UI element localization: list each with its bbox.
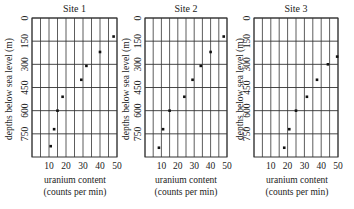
data-point [56, 109, 59, 112]
data-point [191, 78, 194, 81]
x-tick-label: 40 [206, 161, 216, 171]
x-axis-label: uranium content (counts per min) [247, 174, 347, 198]
data-point [85, 65, 88, 68]
data-point [199, 65, 202, 68]
data-point [295, 109, 298, 112]
data-point [283, 146, 286, 149]
y-tick-label: 300 [20, 57, 30, 72]
y-tick-label: 150 [242, 34, 252, 49]
x-tick-label: 20 [283, 161, 293, 171]
data-point [327, 63, 330, 66]
y-tick-label: 600 [20, 103, 30, 118]
x-tick-label: 10 [266, 161, 276, 171]
x-tick-label: 50 [333, 161, 343, 171]
data-point [80, 78, 83, 81]
data-point [53, 128, 56, 131]
y-tick-label: 0 [20, 15, 30, 20]
x-tick-label: 40 [316, 161, 326, 171]
y-tick-label: 450 [133, 80, 143, 95]
site-2-panel: depths below sea level (m) Site 2 015030… [113, 0, 231, 209]
data-point [336, 55, 339, 58]
data-point [162, 128, 165, 131]
y-tick-label: 300 [242, 57, 252, 72]
x-axis-label-line2: (counts per min) [247, 186, 347, 198]
x-axis-label-line1: uranium content [25, 174, 125, 186]
site-3-panel: depths below sea level (m) Site 3 015030… [222, 0, 340, 209]
site-2-plot: 01503004506007501020304050 [113, 0, 233, 175]
y-tick-label: 0 [133, 15, 143, 20]
x-axis-label-line1: uranium content [247, 174, 347, 186]
data-point [61, 95, 64, 98]
x-tick-label: 10 [44, 161, 54, 171]
data-point [288, 128, 291, 131]
data-point [209, 51, 212, 54]
y-tick-label: 150 [20, 34, 30, 49]
x-tick-label: 10 [157, 161, 167, 171]
x-tick-label: 30 [78, 161, 88, 171]
y-tick-label: 750 [242, 126, 252, 141]
data-point [168, 109, 171, 112]
x-tick-label: 20 [61, 161, 71, 171]
data-point [49, 145, 52, 148]
data-point [158, 146, 161, 149]
y-tick-label: 750 [20, 126, 30, 141]
site-3-plot: 01503004506007501020304050 [222, 0, 354, 175]
x-tick-label: 30 [189, 161, 199, 171]
site-1-plot: 01503004506007501020304050 [0, 0, 118, 175]
x-axis-label-line2: (counts per min) [136, 186, 236, 198]
y-tick-label: 150 [133, 34, 143, 49]
x-axis-label: uranium content (counts per min) [25, 174, 125, 198]
x-tick-label: 40 [95, 161, 105, 171]
x-axis-label-line2: (counts per min) [25, 186, 125, 198]
site-1-panel: depths below sea level (m) Site 1 015030… [0, 0, 118, 209]
data-point [183, 95, 186, 98]
data-point [99, 51, 102, 54]
x-tick-label: 30 [300, 161, 310, 171]
y-tick-label: 600 [133, 103, 143, 118]
data-point [316, 78, 319, 81]
y-tick-label: 450 [20, 80, 30, 95]
data-point [306, 95, 309, 98]
x-tick-label: 20 [173, 161, 183, 171]
y-tick-label: 0 [242, 15, 252, 20]
y-tick-label: 750 [133, 126, 143, 141]
x-axis-label: uranium content (counts per min) [136, 174, 236, 198]
y-tick-label: 600 [242, 103, 252, 118]
y-tick-label: 450 [242, 80, 252, 95]
y-tick-label: 300 [133, 57, 143, 72]
x-axis-label-line1: uranium content [136, 174, 236, 186]
